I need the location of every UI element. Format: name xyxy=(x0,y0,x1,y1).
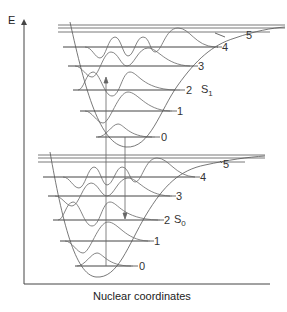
s1-wavefunctions xyxy=(75,28,215,137)
s0-label-0: 0 xyxy=(139,260,145,272)
s1-label-3: 3 xyxy=(198,60,204,72)
y-axis-label: E xyxy=(8,14,15,26)
s0-label-1: 1 xyxy=(154,235,160,247)
s0-label-2: 2 xyxy=(164,214,170,226)
s1-label-2: 2 xyxy=(186,84,192,96)
s1-vibrational-levels xyxy=(63,47,218,137)
s1-label-5: 5 xyxy=(246,29,252,41)
emission-arrowhead xyxy=(123,213,127,219)
s1-label-1: 1 xyxy=(177,105,183,117)
s1-state-label: S1 xyxy=(201,83,213,98)
s0-dissociation-lines xyxy=(38,155,265,162)
x-axis-label: Nuclear coordinates xyxy=(93,290,191,302)
s0-label-3: 3 xyxy=(176,190,182,202)
s0-label-5: 5 xyxy=(223,158,229,170)
s0-label-4: 4 xyxy=(200,171,206,183)
s0-vibrational-levels xyxy=(43,177,195,266)
s0-level-labels: 5 4 3 2 1 0 S0 xyxy=(133,158,229,272)
s1-label-0: 0 xyxy=(161,131,167,143)
axes xyxy=(24,22,270,284)
s1-level-labels: 5 4 3 2 1 0 S1 xyxy=(155,29,252,143)
s1-label-4: 4 xyxy=(222,41,228,53)
s0-state-label: S0 xyxy=(174,213,186,228)
vibronic-energy-diagram: E Nuclear coordinates 5 4 3 2 1 0 S1 xyxy=(0,0,287,312)
absorption-arrowhead xyxy=(104,77,108,83)
